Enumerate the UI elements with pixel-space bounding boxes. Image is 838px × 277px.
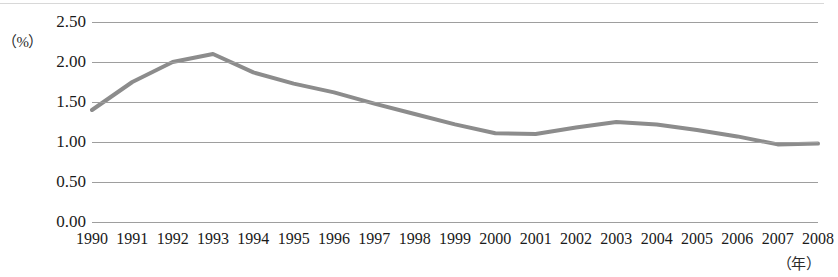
x-tick-label: 2008 [796, 228, 838, 250]
x-tick-label: 2004 [635, 228, 679, 250]
gridline-1.00 [92, 142, 818, 143]
x-tick-label: 1999 [433, 228, 477, 250]
x-tick-label: 1990 [70, 228, 114, 250]
gridline-0.50 [92, 182, 818, 183]
y-axis-tick-labels: 2.502.001.501.000.500.00 [30, 22, 86, 222]
top-frame-rule [0, 3, 824, 4]
gridline-0.00 [92, 222, 818, 223]
x-tick-label: 2001 [514, 228, 558, 250]
gridline-2.00 [92, 62, 818, 63]
x-tick-label: 2006 [715, 228, 759, 250]
x-tick-label: 2007 [756, 228, 800, 250]
x-tick-label: 2000 [473, 228, 517, 250]
plot-area [92, 22, 818, 222]
y-tick-label: 2.50 [34, 13, 86, 30]
x-tick-label: 1992 [151, 228, 195, 250]
x-tick-label: 1991 [110, 228, 154, 250]
x-tick-label: 1998 [393, 228, 437, 250]
x-axis-unit-label: （年） [777, 252, 821, 273]
x-axis-tick-labels: 1990199119921993199419951996199719981999… [92, 228, 818, 252]
y-tick-label: 1.00 [34, 133, 86, 150]
x-tick-label: 1997 [352, 228, 396, 250]
y-tick-label: 0.50 [34, 173, 86, 190]
x-tick-label: 1995 [272, 228, 316, 250]
series-line [92, 22, 818, 222]
y-tick-label: 2.00 [34, 53, 86, 70]
x-tick-label: 2003 [594, 228, 638, 250]
x-tick-label: 2002 [554, 228, 598, 250]
x-tick-label: 1993 [191, 228, 235, 250]
y-tick-label: 1.50 [34, 93, 86, 110]
gridline-1.50 [92, 102, 818, 103]
x-tick-label: 1994 [231, 228, 275, 250]
x-tick-label: 1996 [312, 228, 356, 250]
gridline-2.50 [92, 22, 818, 23]
x-tick-label: 2005 [675, 228, 719, 250]
